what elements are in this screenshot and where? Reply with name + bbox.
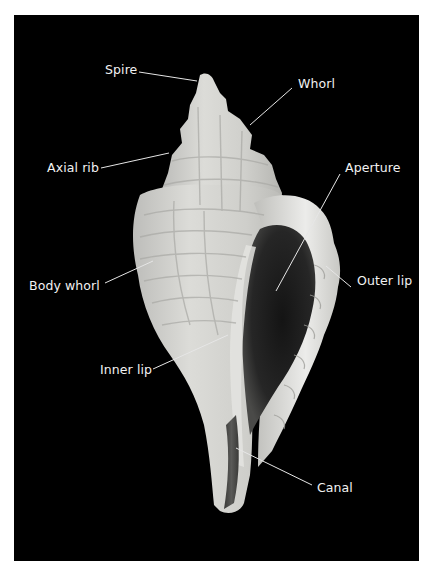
label-spire: Spire [105,63,137,77]
leader-axial-rib [101,153,169,168]
label-canal: Canal [317,481,353,495]
label-axial-rib: Axial rib [47,161,99,175]
figure-panel: Spire Whorl Axial rib Aperture Body whor… [14,15,419,561]
leader-spire [139,72,197,81]
label-body-whorl: Body whorl [29,279,100,293]
label-whorl: Whorl [298,77,335,91]
leader-whorl [250,88,292,125]
label-inner-lip: Inner lip [100,363,152,377]
label-aperture: Aperture [345,161,401,175]
label-outer-lip: Outer lip [357,274,412,288]
